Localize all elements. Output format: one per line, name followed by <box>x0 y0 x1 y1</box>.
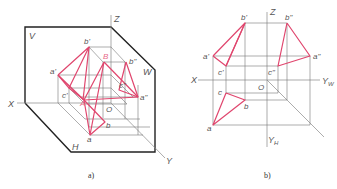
point-b-prime-b: b' <box>241 13 247 22</box>
point-B: B <box>103 52 109 61</box>
figure-b: Z X O YW YH b' b" a' a" c' c" c b a b) <box>190 7 335 180</box>
yw-axis-label: YW <box>322 76 335 87</box>
point-A: A <box>79 99 85 108</box>
orthographic-projection-diagram: V W H Z X Y O b' B b" a' c' A a" c" b a … <box>0 0 337 189</box>
figure-a-caption: a) <box>88 171 95 180</box>
origin-label-b: O <box>258 83 264 92</box>
z-axis-label-b: Z <box>269 7 276 17</box>
point-b-dprime: b" <box>129 57 137 66</box>
origin-label: O <box>106 105 112 114</box>
bisector-line <box>267 80 324 137</box>
point-b: b <box>106 121 111 130</box>
point-c-prime: c' <box>62 91 68 100</box>
pyramid-projections <box>58 47 138 135</box>
figure-b-caption: b) <box>264 171 271 180</box>
x-axis-label-b: X <box>190 75 198 85</box>
yh-axis-label: YH <box>268 135 279 146</box>
point-a-prime-b: a' <box>203 52 209 61</box>
x-axis-label: X <box>7 99 15 109</box>
point-a-prime: a' <box>50 67 56 76</box>
point-c-dprime-b: c" <box>268 68 276 77</box>
point-b-b: b <box>244 102 249 111</box>
point-b-prime: b' <box>84 37 90 46</box>
y-axis-label: Y <box>166 156 173 166</box>
construction-lines-b <box>213 23 310 125</box>
point-a-dprime: a" <box>140 93 148 102</box>
point-b-dprime-b: b" <box>285 13 293 22</box>
triangle-projections <box>213 23 310 125</box>
point-c-dprime: c" <box>119 81 127 90</box>
h-plane-label: H <box>72 142 79 152</box>
figure-a: V W H Z X Y O b' B b" a' c' A a" c" b a … <box>7 14 173 180</box>
top-view-triangle <box>213 93 245 125</box>
point-c-b: c <box>218 88 222 97</box>
point-a-dprime-b: a" <box>313 52 321 61</box>
point-a-b: a <box>207 124 212 133</box>
point-a: a <box>87 135 92 144</box>
z-axis-label: Z <box>113 14 120 24</box>
point-c-prime-b: c' <box>218 68 224 77</box>
v-plane-label: V <box>29 31 36 41</box>
w-plane-label: W <box>143 67 153 77</box>
side-view-triangle <box>278 23 310 66</box>
